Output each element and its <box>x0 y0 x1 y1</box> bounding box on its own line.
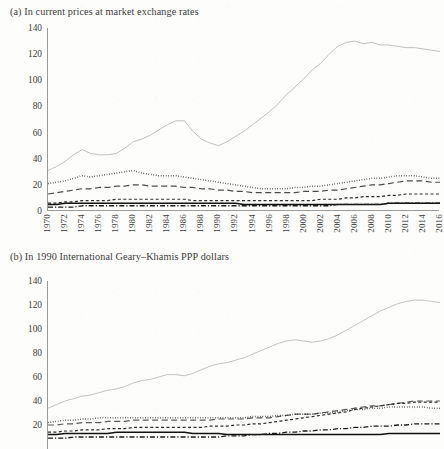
x-tick-label: 1986 <box>178 214 188 233</box>
y-tick-label: 80 <box>33 348 42 358</box>
x-tick-label: 2000 <box>298 214 308 233</box>
series-line-series-1 <box>48 41 440 170</box>
series-line-series-3 <box>48 407 440 423</box>
y-tick-label: 20 <box>33 180 42 190</box>
x-tick-label: 2006 <box>349 214 359 233</box>
series-line-series-1 <box>48 300 440 408</box>
x-tick-label: 1976 <box>93 214 103 233</box>
series-line-series-6 <box>48 424 440 438</box>
series-line-series-4 <box>48 194 440 203</box>
panel-b-plot-area <box>47 281 439 449</box>
panel-a-x-axis: 1970197219741976197819801982198419861988… <box>47 214 439 248</box>
x-tick-label: 1994 <box>247 214 257 233</box>
y-tick-label: 60 <box>33 372 42 382</box>
panel-a-lines <box>48 28 440 211</box>
y-tick-label: 120 <box>28 49 42 59</box>
panel-a-y-axis: 020406080100120140 <box>0 28 42 211</box>
chart-panel-a: (a) In current prices at market exchange… <box>0 0 444 245</box>
panel-a-title: (a) In current prices at market exchange… <box>10 6 199 17</box>
x-tick-label: 1970 <box>42 214 52 233</box>
y-tick-label: 140 <box>28 276 42 286</box>
x-tick-label: 2002 <box>315 214 325 233</box>
series-line-series-3 <box>48 181 440 194</box>
x-tick-label: 1980 <box>127 214 137 233</box>
y-tick-label: 80 <box>33 101 42 111</box>
x-tick-label: 2010 <box>383 214 393 233</box>
series-line-series-4 <box>48 402 440 432</box>
y-tick-label: 40 <box>33 154 42 164</box>
x-tick-label: 2008 <box>366 214 376 233</box>
x-tick-label: 1990 <box>212 214 222 233</box>
x-tick-label: 2004 <box>332 214 342 233</box>
y-tick-label: 60 <box>33 128 42 138</box>
x-tick-label: 1996 <box>264 214 274 233</box>
x-tick-label: 1992 <box>229 214 239 233</box>
x-tick-label: 1978 <box>110 214 120 233</box>
x-tick-label: 1984 <box>161 214 171 233</box>
x-tick-label: 2014 <box>417 214 427 233</box>
panel-b-lines <box>48 281 440 449</box>
series-line-series-5 <box>48 432 440 434</box>
panel-a-plot-area <box>47 28 439 211</box>
chart-panel-b: (b) In 1990 International Geary–Khamis P… <box>0 245 444 443</box>
x-tick-label: 1982 <box>144 214 154 233</box>
series-line-series-2 <box>48 170 440 188</box>
y-tick-label: 140 <box>28 23 42 33</box>
panel-b-title: (b) In 1990 International Geary–Khamis P… <box>10 251 229 262</box>
x-tick-label: 2016 <box>434 214 444 233</box>
x-tick-label: 1988 <box>195 214 205 233</box>
x-tick-label: 1974 <box>76 214 86 233</box>
y-tick-label: 100 <box>28 75 42 85</box>
series-line-series-2 <box>48 401 440 425</box>
x-tick-label: 1972 <box>59 214 69 233</box>
y-tick-label: 120 <box>28 300 42 310</box>
y-tick-label: 100 <box>28 324 42 334</box>
x-tick-label: 2012 <box>400 214 410 233</box>
y-tick-label: 40 <box>33 396 42 406</box>
panel-b-y-axis: 20406080100120140 <box>0 281 42 449</box>
y-tick-label: 20 <box>33 420 42 430</box>
x-tick-label: 1998 <box>281 214 291 233</box>
